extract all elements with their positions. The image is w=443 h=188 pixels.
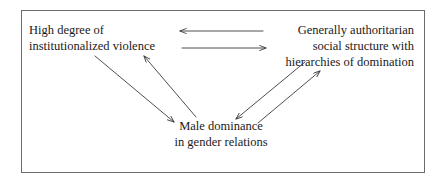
node-line: Generally authoritarian [286,22,414,38]
node-line: institutionalized violence [29,38,155,54]
diagram-page: High degree of institutionalized violenc… [0,0,443,188]
node-line: High degree of [29,22,155,38]
node-line: social structure with [286,38,414,54]
node-male-dominance: Male dominance in gender relations [0,118,443,150]
node-institutionalized-violence: High degree of institutionalized violenc… [29,22,155,54]
node-line: Male dominance [0,118,443,134]
node-line: hierarchies of domination [286,54,414,70]
node-line: in gender relations [0,134,443,150]
node-authoritarian-social-structure: Generally authoritarian social structure… [286,22,414,70]
